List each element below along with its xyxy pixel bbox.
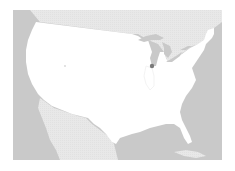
point-marker-great-lakes xyxy=(150,64,154,68)
map xyxy=(0,0,235,171)
point-marker-west xyxy=(64,65,66,67)
